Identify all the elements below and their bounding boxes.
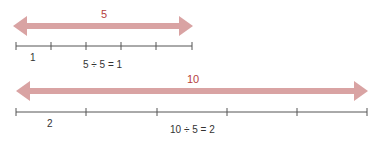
arrow-label-10: 10 — [187, 73, 199, 85]
equation-2: 10 ÷ 5 = 2 — [170, 124, 215, 135]
segment-label-2: 2 — [47, 118, 53, 129]
segment-label-1: 1 — [30, 52, 36, 63]
segment-scale-2 — [16, 108, 367, 116]
arrow-label-5: 5 — [101, 8, 107, 20]
segment-scale-1 — [16, 42, 192, 50]
number-line-diagram — [0, 0, 383, 143]
equation-1: 5 ÷ 5 = 1 — [83, 59, 122, 70]
